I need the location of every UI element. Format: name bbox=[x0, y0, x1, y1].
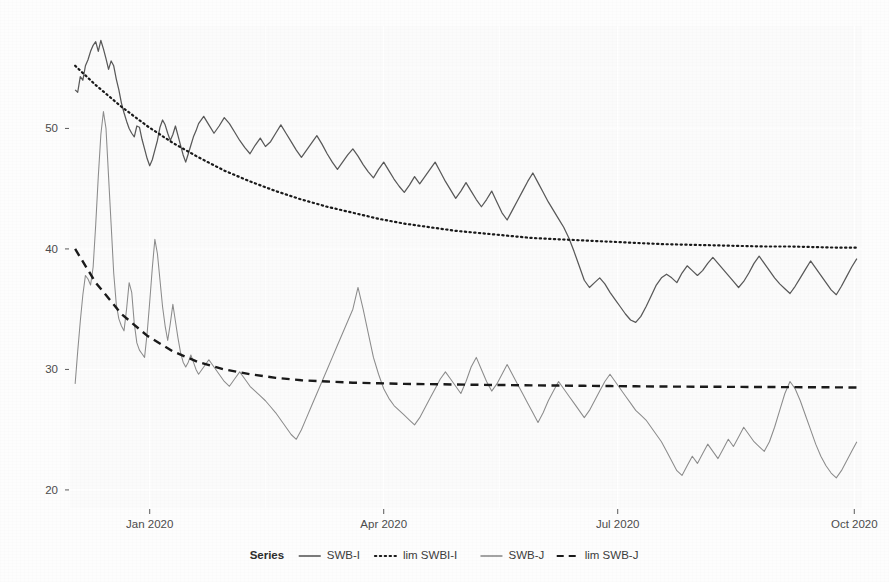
x-tick-label: Oct 2020 bbox=[831, 518, 878, 530]
legend-label-swb-j: SWB-J bbox=[508, 549, 544, 561]
x-tick-label: Jan 2020 bbox=[126, 518, 173, 530]
chart-legend: SeriesSWB-Ilim SWBI-ISWB-Jlim SWB-J bbox=[250, 549, 639, 561]
legend-label-swb-i: SWB-I bbox=[327, 549, 360, 561]
chart-figure: 20304050 Jan 2020Apr 2020Jul 2020Oct 202… bbox=[0, 0, 889, 582]
legend-label-lim-swb-j: lim SWB-J bbox=[585, 549, 639, 561]
y-tick-label: 30 bbox=[45, 363, 58, 375]
y-axis: 20304050 bbox=[45, 122, 69, 496]
timeseries-line-chart: 20304050 Jan 2020Apr 2020Jul 2020Oct 202… bbox=[0, 0, 889, 582]
legend-title: Series bbox=[250, 549, 285, 561]
plot-panel-background bbox=[70, 26, 862, 508]
x-tick-label: Apr 2020 bbox=[360, 518, 407, 530]
y-tick-label: 40 bbox=[45, 243, 58, 255]
y-tick-label: 50 bbox=[45, 122, 58, 134]
x-axis: Jan 2020Apr 2020Jul 2020Oct 2020 bbox=[126, 509, 878, 530]
legend-label-lim-swbi-i: lim SWBI-I bbox=[403, 549, 457, 561]
y-tick-label: 20 bbox=[45, 484, 58, 496]
x-tick-label: Jul 2020 bbox=[596, 518, 639, 530]
